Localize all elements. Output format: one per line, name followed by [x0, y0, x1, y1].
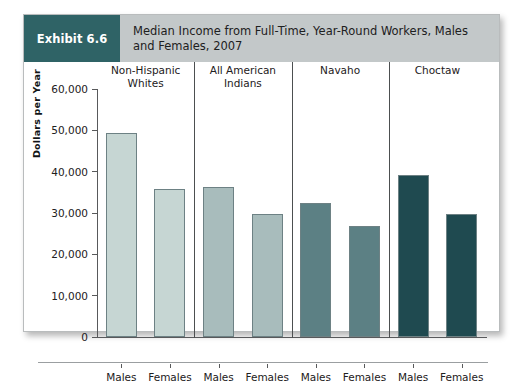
- x-axis-tick-mark: [462, 364, 463, 368]
- group-header-line: Choctaw: [389, 64, 486, 77]
- x-axis-label: Females: [245, 371, 288, 383]
- group-separator: [194, 62, 195, 338]
- x-axis-label: Males: [203, 371, 233, 383]
- y-axis-tick-label: 20,000: [51, 248, 88, 260]
- group-header: Non-HispanicWhites: [97, 64, 194, 90]
- exhibit-badge: Exhibit 6.6: [24, 15, 120, 62]
- x-axis-label: Females: [440, 371, 483, 383]
- y-axis-tick: 10,000: [51, 290, 97, 302]
- y-axis-tick: 60,000: [51, 83, 97, 95]
- x-axis-label: Males: [301, 371, 331, 383]
- group-header-line: Non-Hispanic: [97, 64, 194, 77]
- x-axis-tick-mark: [121, 364, 122, 368]
- group-header: Choctaw: [389, 64, 486, 77]
- group-separator: [389, 62, 390, 338]
- x-axis-tick-mark: [413, 364, 414, 368]
- x-axis-label: Females: [148, 371, 191, 383]
- y-axis-tick: 30,000: [51, 207, 97, 219]
- y-axis-tick-label: 30,000: [51, 207, 88, 219]
- group-header: All AmericanIndians: [194, 64, 291, 90]
- chart-area: Dollars per Year 60,00050,00040,00030,00…: [24, 62, 499, 331]
- y-axis-tick: 0: [81, 331, 97, 343]
- group-header: Navaho: [292, 64, 389, 77]
- group-separator: [292, 62, 293, 338]
- bar: [203, 187, 234, 337]
- y-axis-tick-mark: [92, 130, 97, 131]
- bar: [154, 189, 185, 337]
- x-axis-tick-mark: [267, 364, 268, 368]
- y-axis-tick-mark: [92, 171, 97, 172]
- y-axis-tick-label: 40,000: [51, 166, 88, 178]
- y-axis-tick-mark: [92, 295, 97, 296]
- exhibit-panel: Exhibit 6.6 Median Income from Full-Time…: [23, 14, 500, 332]
- group-header-line: Navaho: [292, 64, 389, 77]
- page-divider: [38, 362, 488, 363]
- bar: [349, 226, 380, 337]
- exhibit-header: Exhibit 6.6 Median Income from Full-Time…: [24, 15, 499, 62]
- y-axis-tick-label: 60,000: [51, 83, 88, 95]
- y-axis-tick: 20,000: [51, 248, 97, 260]
- group-header-line: Whites: [97, 77, 194, 90]
- x-axis-tick-mark: [219, 364, 220, 368]
- plot-area: 60,00050,00040,00030,00020,00010,0000Non…: [97, 89, 486, 337]
- x-axis-label: Males: [106, 371, 136, 383]
- x-axis-tick-mark: [170, 364, 171, 368]
- bar: [398, 175, 429, 337]
- x-axis-label: Males: [398, 371, 428, 383]
- exhibit-title: Median Income from Full-Time, Year-Round…: [120, 15, 499, 62]
- bar: [300, 203, 331, 337]
- group-header-line: All American: [194, 64, 291, 77]
- y-axis-tick-label: 0: [81, 331, 88, 343]
- y-axis-tick-label: 10,000: [51, 290, 88, 302]
- y-axis-tick-label: 50,000: [51, 124, 88, 136]
- y-axis-title: Dollars per Year: [31, 69, 42, 158]
- y-axis-tick-mark: [92, 337, 97, 338]
- bar: [446, 214, 477, 337]
- group-header-line: Indians: [194, 77, 291, 90]
- y-axis-tick: 40,000: [51, 166, 97, 178]
- x-axis-tick-mark: [364, 364, 365, 368]
- bar: [252, 214, 283, 337]
- y-axis-tick-mark: [92, 254, 97, 255]
- x-axis-tick-mark: [316, 364, 317, 368]
- bar: [106, 133, 137, 337]
- y-axis-tick: 50,000: [51, 124, 97, 136]
- y-axis-tick-mark: [92, 213, 97, 214]
- x-axis-label: Females: [343, 371, 386, 383]
